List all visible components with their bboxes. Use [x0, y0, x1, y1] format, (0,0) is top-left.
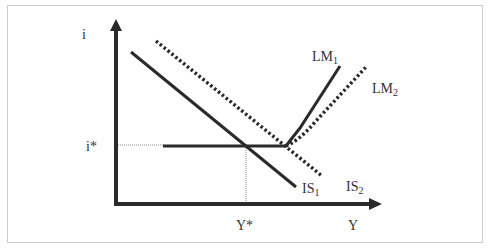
lm2-label-sub: 2 [393, 87, 398, 98]
lm2-curve [286, 67, 366, 146]
is2-curve [156, 41, 322, 176]
lm1-label-base: LM [312, 49, 333, 64]
is2-label: IS2 [346, 180, 363, 196]
is2-label-sub: 2 [358, 185, 363, 196]
is-lm-diagram [0, 0, 490, 249]
is1-label-base: IS [302, 181, 314, 196]
x-axis-label: Y [348, 219, 358, 233]
is1-curve [131, 52, 296, 187]
is1-label: IS1 [302, 182, 319, 198]
i-star-label: i* [86, 140, 97, 154]
is2-label-base: IS [346, 179, 358, 194]
lm2-label-base: LM [372, 81, 393, 96]
lm2-label: LM2 [372, 82, 398, 98]
is1-label-sub: 1 [314, 187, 319, 198]
y-axis-label: i [82, 28, 86, 42]
lm1-label-sub: 1 [333, 55, 338, 66]
x-axis-arrow-icon [369, 198, 382, 210]
lm1-label: LM1 [312, 50, 338, 66]
lm1-curve [163, 66, 340, 146]
y-axis-arrow-icon [110, 19, 122, 31]
y-star-label: Y* [236, 219, 253, 233]
